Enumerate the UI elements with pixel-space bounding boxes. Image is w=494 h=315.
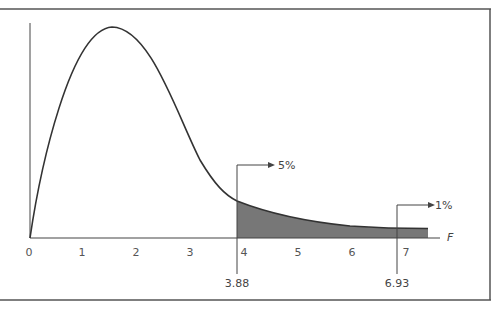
arrow-right-icon <box>428 202 435 208</box>
crit2-marker-line <box>397 205 428 274</box>
rejection-region <box>237 201 428 238</box>
tail-area-5pct: 5% <box>278 159 295 172</box>
f-distribution-chart: 0 1 2 3 4 5 6 7 F 5% 3.88 1% 6.93 <box>0 0 494 315</box>
tick-1: 1 <box>79 246 86 259</box>
tick-4: 4 <box>241 246 248 259</box>
density-curve <box>30 27 428 238</box>
tick-0: 0 <box>26 246 33 259</box>
crit2-label: 6.93 <box>385 277 410 290</box>
arrow-right-icon <box>268 162 275 168</box>
tick-5: 5 <box>295 246 302 259</box>
tick-6: 6 <box>349 246 356 259</box>
tick-7: 7 <box>403 246 410 259</box>
crit1-label: 3.88 <box>225 277 250 290</box>
tick-3: 3 <box>187 246 194 259</box>
tick-2: 2 <box>133 246 140 259</box>
tail-area-1pct: 1% <box>435 199 452 212</box>
x-axis-label: F <box>447 231 454 244</box>
